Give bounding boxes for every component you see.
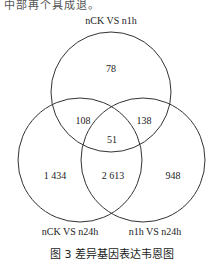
region-all-three: 51 [107,134,117,145]
region-nck-n1h-nck-n24h: 108 [76,115,91,126]
region-only-n1h-n24h: 948 [166,170,181,181]
region-only-nck-n1h: 78 [106,63,116,74]
region-nck-n1h-n1h-n24h: 138 [137,115,152,126]
region-only-nck-n24h: 1 434 [44,170,67,181]
set-label-nck-vs-n24h: nCK VS n24h [42,226,99,237]
region-nck-n24h-n1h-n24h: 2 613 [102,170,125,181]
set-label-n1h-vs-n24h: n1h VS n24h [129,226,182,237]
set-label-nck-vs-n1h: nCK VS n1h [85,15,137,26]
figure-caption: 图 3 差异基因表达韦恩图 [0,245,224,261]
